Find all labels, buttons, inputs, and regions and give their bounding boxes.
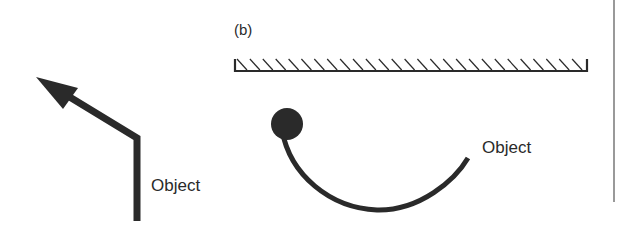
curved-path-figure — [271, 108, 468, 210]
bent-arrow-shaft-icon — [68, 96, 137, 221]
panel-b-label: (b) — [234, 21, 252, 38]
arrowhead-icon — [36, 77, 78, 109]
right-object-label: Object — [482, 138, 531, 157]
bent-arrow-figure — [36, 77, 137, 221]
curved-path-icon — [282, 130, 468, 210]
left-object-label: Object — [151, 176, 200, 195]
mirror-hatching — [237, 59, 582, 70]
mirror-surface — [235, 59, 587, 71]
diagram-canvas: Object (b) Object — [0, 0, 623, 250]
ball-icon — [271, 108, 303, 140]
